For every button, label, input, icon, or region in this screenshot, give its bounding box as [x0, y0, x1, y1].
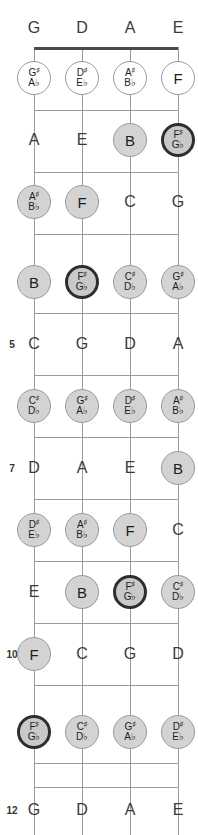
fret-number-12: 12	[6, 805, 17, 816]
note-flat-text: E♭	[76, 78, 87, 88]
note-10-g-f: F	[17, 637, 51, 671]
nut-line	[34, 47, 178, 50]
note-1-e-f: F	[161, 61, 195, 95]
note-flat-text: D♭	[124, 282, 136, 292]
note-flat-text: D♭	[172, 592, 184, 602]
note-text: C	[76, 646, 88, 662]
note-flat-text: A♭	[76, 406, 87, 416]
note-flat-text: G♭	[124, 592, 136, 602]
fret-number-5: 5	[9, 339, 15, 350]
fret-line-2	[34, 172, 178, 173]
string-label-e: E	[173, 19, 184, 37]
note-1-d-Dsharp: D♯E♭	[65, 61, 99, 95]
note-text: F	[125, 523, 134, 538]
fret-line-11	[34, 763, 178, 764]
note-flat-text: E♭	[124, 406, 135, 416]
note-5-d-g: G	[76, 336, 88, 352]
note-11-g-Fsharp: F♯G♭	[17, 715, 51, 749]
note-2-d-e: E	[77, 132, 88, 148]
note-5-e-a: A	[173, 336, 184, 352]
string-label-d: D	[76, 19, 88, 37]
fret-number-7: 7	[9, 463, 15, 474]
fret-line-1	[34, 110, 178, 111]
note-text: C	[172, 522, 184, 538]
fret-line-6	[34, 437, 178, 438]
note-text: D	[76, 802, 88, 818]
note-flat-text: B♭	[28, 202, 39, 212]
note-flat-text: A♭	[28, 78, 39, 88]
note-flat-text: G♭	[172, 140, 184, 150]
note-flat-text: E♭	[28, 530, 39, 540]
note-text: F	[77, 195, 86, 210]
note-8-a-f: F	[113, 513, 147, 547]
note-11-a-Gsharp: G♯A♭	[113, 715, 147, 749]
note-12-d-d: D	[76, 802, 88, 818]
note-8-g-Dsharp: D♯E♭	[17, 513, 51, 547]
note-text: G	[172, 194, 184, 210]
note-text: E	[125, 460, 136, 476]
note-7-g-d: D	[28, 460, 40, 476]
note-flat-text: B♭	[124, 78, 135, 88]
note-text: G	[28, 802, 40, 818]
fret-line-4	[34, 313, 178, 314]
note-8-e-c: C	[172, 522, 184, 538]
note-text: B	[29, 275, 39, 290]
note-flat-text: A♭	[172, 282, 183, 292]
note-1-g-Gsharp: G♯A♭	[17, 61, 51, 95]
note-10-d-c: C	[76, 646, 88, 662]
note-2-e-Fsharp: F♯G♭	[161, 123, 195, 157]
note-12-e-e: E	[173, 802, 184, 818]
note-1-a-Asharp: A♯B♭	[113, 61, 147, 95]
note-9-g-e: E	[29, 584, 40, 600]
note-7-e-b: B	[161, 451, 195, 485]
note-5-a-d: D	[124, 336, 136, 352]
note-flat-text: D♭	[28, 406, 40, 416]
note-3-a-c: C	[124, 194, 136, 210]
note-11-d-Csharp: C♯D♭	[65, 715, 99, 749]
note-flat-text: G♭	[76, 282, 88, 292]
note-text: E	[173, 802, 184, 818]
note-6-e-Asharp: A♯B♭	[161, 389, 195, 423]
note-4-d-Fsharp: F♯G♭	[65, 265, 99, 299]
note-11-e-Dsharp: D♯E♭	[161, 715, 195, 749]
string-label-g: G	[28, 19, 40, 37]
fret-number-10: 10	[6, 649, 17, 660]
note-text: B	[77, 585, 87, 600]
note-text: G	[76, 336, 88, 352]
note-6-a-Dsharp: D♯E♭	[113, 389, 147, 423]
note-6-d-Gsharp: G♯A♭	[65, 389, 99, 423]
string-label-a: A	[125, 19, 136, 37]
note-4-e-Gsharp: G♯A♭	[161, 265, 195, 299]
note-7-a-e: E	[125, 460, 136, 476]
note-text: F	[29, 647, 38, 662]
note-text: F	[173, 71, 182, 86]
fret-line-7	[34, 499, 178, 500]
note-text: E	[29, 584, 40, 600]
note-flat-text: B♭	[172, 406, 183, 416]
fret-line-5	[34, 375, 178, 376]
note-5-g-c: C	[28, 336, 40, 352]
note-10-a-g: G	[124, 646, 136, 662]
note-flat-text: A♭	[124, 732, 135, 742]
note-text: A	[29, 132, 40, 148]
note-text: G	[124, 646, 136, 662]
note-9-a-Fsharp: F♯G♭	[113, 575, 147, 609]
note-9-d-b: B	[65, 575, 99, 609]
note-flat-text: D♭	[76, 732, 88, 742]
fret-line-3	[34, 234, 178, 235]
note-7-d-a: A	[77, 460, 88, 476]
note-6-g-Csharp: C♯D♭	[17, 389, 51, 423]
fretboard-diagram: GDAE571012G♯A♭D♯E♭A♯B♭FAEBF♯G♭A♯B♭FCGBF♯…	[0, 0, 198, 835]
fret-line-8	[34, 561, 178, 562]
note-4-a-Csharp: C♯D♭	[113, 265, 147, 299]
note-flat-text: G♭	[28, 732, 40, 742]
note-10-e-d: D	[172, 646, 184, 662]
note-text: C	[124, 194, 136, 210]
note-flat-text: E♭	[172, 732, 183, 742]
note-text: D	[172, 646, 184, 662]
note-4-g-b: B	[17, 265, 51, 299]
note-text: D	[28, 460, 40, 476]
note-text: B	[173, 461, 183, 476]
note-9-e-Csharp: C♯D♭	[161, 575, 195, 609]
note-text: A	[77, 460, 88, 476]
